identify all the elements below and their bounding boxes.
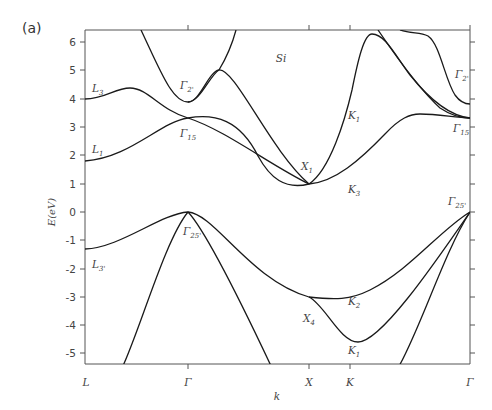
- y-axis-ticks: [80, 42, 85, 353]
- y-axis-title: E(eV): [46, 198, 57, 227]
- svg-text:4: 4: [69, 93, 76, 105]
- svg-text:K: K: [345, 376, 355, 388]
- bands: [85, 30, 470, 368]
- label-l3: L3: [91, 82, 104, 97]
- band-valence-top: [85, 212, 470, 299]
- label-k3: K3: [347, 183, 361, 198]
- svg-text:-3: -3: [66, 291, 76, 303]
- svg-text:X: X: [304, 376, 313, 388]
- label-l1: L1: [91, 143, 103, 158]
- label-k1-upper: K1: [347, 109, 360, 124]
- band-l3: [85, 88, 309, 184]
- svg-text:Γ: Γ: [465, 376, 474, 388]
- band-x4-k1: [309, 212, 470, 342]
- band-valence-lower-right2: [398, 212, 470, 368]
- material-label: Si: [276, 52, 287, 64]
- band-g2p-right: [400, 30, 470, 104]
- band-valence-lower-left: [122, 212, 188, 368]
- label-g25p: Γ25': [182, 225, 201, 240]
- svg-text:5: 5: [69, 64, 76, 76]
- svg-text:-4: -4: [66, 319, 77, 331]
- y-tick-labels: 6 5 4 3 2 1 0 -1 -2 -3 -4 -5: [66, 36, 77, 359]
- band-x1-k1: [309, 34, 470, 184]
- band-structure-chart: 6 5 4 3 2 1 0 -1 -2 -3 -4 -5 E(eV) L Γ X…: [0, 0, 492, 410]
- svg-text:0: 0: [69, 206, 76, 218]
- band-l1: [85, 117, 309, 186]
- svg-text:L: L: [82, 376, 90, 388]
- right-y-ticks: [470, 42, 475, 353]
- label-g2p-right: Γ2': [454, 68, 469, 83]
- svg-text:-2: -2: [66, 263, 76, 275]
- svg-text:6: 6: [69, 36, 76, 48]
- label-k2: K2: [347, 295, 361, 310]
- label-g2p: Γ2': [179, 79, 194, 94]
- svg-text:-5: -5: [66, 347, 76, 359]
- svg-text:2: 2: [69, 149, 76, 161]
- symmetry-labels: L3 L1 L3' Γ2' Γ15 Γ25' X1 X4 K1 K3 K2 K1…: [91, 68, 470, 359]
- svg-text:3: 3: [69, 121, 76, 133]
- label-k1-lower: K1: [347, 344, 360, 359]
- label-g15-right: Γ15: [452, 122, 470, 137]
- x-axis-title: k: [274, 390, 280, 402]
- label-g15: Γ15: [179, 127, 197, 142]
- label-x1: X1: [300, 160, 313, 175]
- svg-text:-1: -1: [66, 234, 76, 246]
- band-g2p-up: [188, 30, 236, 102]
- label-l3p: L3': [91, 258, 105, 273]
- label-x4: X4: [302, 312, 315, 327]
- x-tick-labels: L Γ X K Γ: [82, 376, 475, 388]
- svg-text:Γ: Γ: [183, 376, 192, 388]
- svg-text:1: 1: [69, 178, 76, 190]
- label-g25p-right: Γ25': [447, 195, 466, 210]
